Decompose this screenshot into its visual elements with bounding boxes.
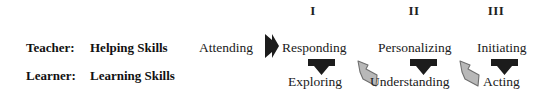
role-label-teacher: Teacher: (26, 40, 75, 56)
helping-skills-diagram: I II III Teacher: Helping Skills Attendi… (0, 0, 548, 103)
teacher-stage-initiating: Initiating (477, 40, 527, 56)
teacher-stage-responding: Responding (282, 40, 347, 56)
skills-label-helping: Helping Skills (90, 40, 168, 56)
phase-numeral-2: II (398, 3, 430, 19)
learner-stage-understanding: Understanding (370, 74, 449, 90)
role-label-learner: Learner: (26, 68, 76, 84)
right-arrow-icon (263, 33, 280, 59)
phase-numeral-3: III (480, 3, 512, 19)
learner-stage-acting: Acting (483, 74, 520, 90)
up-arrow-icon-understanding-initiating (459, 59, 480, 87)
teacher-stage-personalizing: Personalizing (378, 40, 452, 56)
skills-label-learning: Learning Skills (90, 68, 175, 84)
teacher-stage-attending: Attending (199, 40, 253, 56)
learner-stage-exploring: Exploring (288, 74, 342, 90)
phase-numeral-1: I (297, 3, 329, 19)
